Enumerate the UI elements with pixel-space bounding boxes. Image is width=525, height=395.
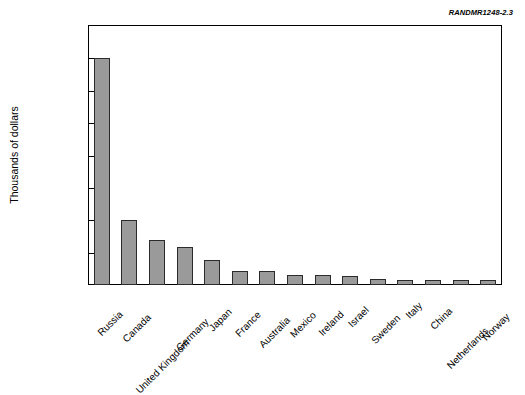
bar (121, 220, 137, 285)
x-axis-tick-label: Russia (117, 287, 146, 316)
bar (94, 58, 110, 285)
x-axis-tick-label-text: Canada (121, 312, 154, 345)
bar (425, 280, 441, 285)
bar (315, 275, 331, 285)
bars-container (88, 26, 502, 285)
bar (287, 275, 303, 285)
x-axis-tick-label-text: China (428, 305, 454, 331)
y-axis-tick-labels: 050,000100,000150,000200,000250,000300,0… (0, 0, 84, 360)
bar (370, 279, 386, 285)
x-axis-tick-label-text: Russia (95, 309, 124, 338)
x-axis-tick-label: France (255, 287, 285, 317)
bars-layer (88, 25, 502, 285)
bar (480, 280, 496, 285)
x-axis-tick-label: Israel (363, 287, 388, 312)
bar (149, 240, 165, 285)
x-axis-tick-label-text: Sweden (369, 313, 402, 346)
bar (342, 276, 358, 285)
bar (453, 280, 469, 285)
bar (204, 260, 220, 285)
source-identifier: RANDMR1248-2.3 (449, 8, 513, 17)
x-axis-tick-label-text: Germany (174, 316, 211, 353)
bar (177, 247, 193, 285)
x-axis-tick-label-text: France (233, 309, 263, 339)
x-axis-tick-label: China (447, 287, 473, 313)
x-axis-tick-labels: RussiaCanadaUnited KingdomGermanyJapanFr… (88, 287, 502, 359)
bar (232, 271, 248, 285)
bar (259, 271, 275, 285)
x-axis-tick-label: Canada (146, 287, 179, 320)
bar (397, 280, 413, 285)
